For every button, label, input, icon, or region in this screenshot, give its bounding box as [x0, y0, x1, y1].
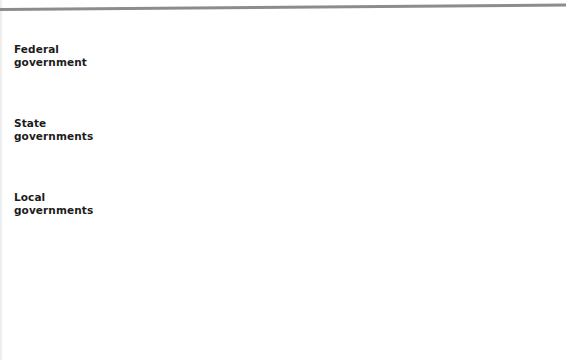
fence-graphic: [0, 0, 572, 360]
picket-fence-figure: Federal government State governments Loc…: [0, 0, 572, 360]
